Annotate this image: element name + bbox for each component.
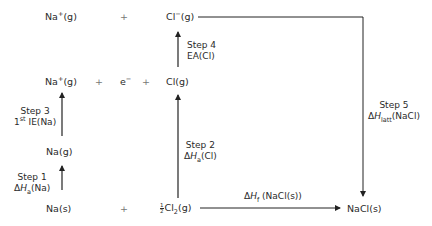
step5-label: Step 5 ΔHlatt(NaCl) [368, 100, 420, 122]
step5-enthalpy: ΔHlatt(NaCl) [368, 111, 420, 122]
species-na-plus-gas-mid: Na+(g) [45, 76, 77, 87]
plus-sign: + [120, 11, 128, 22]
species-na-gas: Na(g) [46, 146, 72, 157]
species-nacl-solid: NaCl(s) [347, 203, 382, 214]
step3-label: Step 3 1st IE(Na) [14, 106, 56, 128]
one-half-fraction: 12 [160, 203, 164, 214]
step4-title: Step 4 [187, 40, 216, 51]
step1-enthalpy: ΔHa(Na) [14, 183, 50, 194]
formation-enthalpy-label: ΔHf (NaCl(s)) [244, 191, 302, 202]
species-na-solid: Na(s) [46, 203, 71, 214]
step5-arrow [198, 17, 363, 196]
step4-name: EA(Cl) [187, 51, 216, 62]
step5-title: Step 5 [368, 100, 420, 111]
species-electron: e− [120, 76, 131, 87]
step2-label: Step 2 ΔHa(Cl) [184, 140, 217, 162]
step4-label: Step 4 EA(Cl) [187, 40, 216, 62]
plus-sign: + [120, 203, 128, 214]
species-na-plus-gas-top: Na+(g) [45, 11, 77, 22]
step3-name: 1st IE(Na) [14, 117, 56, 128]
species-half-cl2-gas: 12Cl2(g) [160, 202, 191, 214]
plus-sign: + [142, 76, 150, 87]
step1-label: Step 1 ΔHa(Na) [14, 172, 50, 194]
step2-enthalpy: ΔHa(Cl) [184, 151, 217, 162]
species-cl-gas: Cl(g) [166, 76, 189, 87]
step1-title: Step 1 [14, 172, 50, 183]
species-cl-minus-gas: Cl−(g) [166, 11, 194, 22]
plus-sign: + [95, 76, 103, 87]
step2-title: Step 2 [184, 140, 217, 151]
